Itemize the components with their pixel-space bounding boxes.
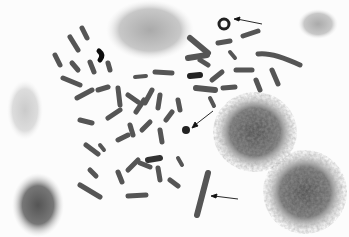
chromosome-spread-image xyxy=(0,0,349,237)
micrograph xyxy=(0,0,349,237)
nuclei xyxy=(7,0,347,237)
dot-chromosome xyxy=(182,126,190,134)
ring-chromosome xyxy=(219,19,229,29)
